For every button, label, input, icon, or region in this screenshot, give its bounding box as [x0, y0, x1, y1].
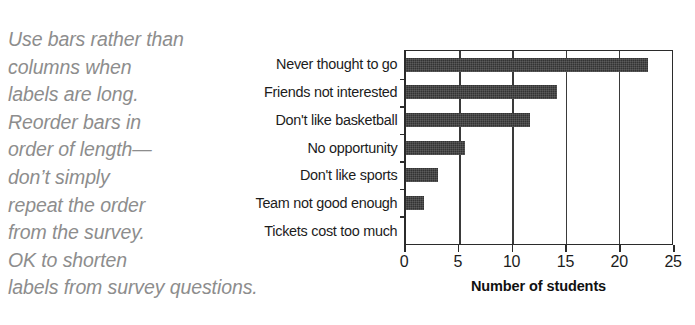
annotation-line: from the survey.	[8, 219, 223, 247]
bar-row	[406, 106, 672, 134]
value-tick-label: 20	[611, 253, 628, 271]
bar-row	[406, 189, 672, 217]
bar-row	[406, 161, 672, 189]
annotation-line: Use bars rather than	[8, 26, 223, 54]
category-label: Team not good enough	[235, 189, 402, 217]
value-tick	[404, 245, 406, 252]
bar-chart-figure: Never thought to goFriends not intereste…	[222, 42, 688, 322]
category-label: No opportunity	[235, 134, 402, 162]
value-tick	[673, 245, 675, 252]
category-label: Tickets cost too much	[235, 217, 402, 245]
annotation-line: order of length—	[8, 136, 223, 164]
value-tick	[619, 245, 621, 252]
bar	[406, 196, 424, 210]
annotation-line: labels are long.	[8, 81, 223, 109]
bar-row	[406, 51, 672, 79]
value-tick-label: 0	[400, 253, 409, 271]
category-label: Don't like sports	[235, 161, 402, 189]
bar	[406, 141, 465, 155]
bar	[406, 58, 648, 72]
value-tick	[512, 245, 514, 252]
bar-row	[406, 134, 672, 162]
annotation-line: columns when	[8, 54, 223, 82]
bar-row	[406, 79, 672, 107]
annotation-line: OK to shorten	[8, 247, 223, 275]
category-label: Never thought to go	[235, 50, 402, 78]
category-label: Don't like basketball	[235, 106, 402, 134]
annotation-line: don’t simply	[8, 164, 223, 192]
value-tick-label: 10	[503, 253, 520, 271]
category-label: Friends not interested	[235, 78, 402, 106]
value-axis-title: Number of students	[404, 278, 673, 294]
plot-area	[404, 50, 673, 245]
bars-container	[406, 51, 672, 244]
bar	[406, 113, 530, 127]
value-tick-label: 15	[557, 253, 574, 271]
bar-row	[406, 216, 672, 244]
value-tick-label: 5	[453, 253, 462, 271]
annotation-text-block: Use bars rather than columns when labels…	[8, 26, 223, 302]
value-tick	[458, 245, 460, 252]
value-axis: 0510152025	[404, 245, 673, 275]
annotation-line: repeat the order	[8, 192, 223, 220]
annotation-line: Reorder bars in	[8, 109, 223, 137]
category-axis-labels: Never thought to goFriends not intereste…	[222, 50, 402, 245]
bar	[406, 85, 557, 99]
bar	[406, 168, 438, 182]
value-tick	[565, 245, 567, 252]
value-tick-label: 25	[664, 253, 681, 271]
